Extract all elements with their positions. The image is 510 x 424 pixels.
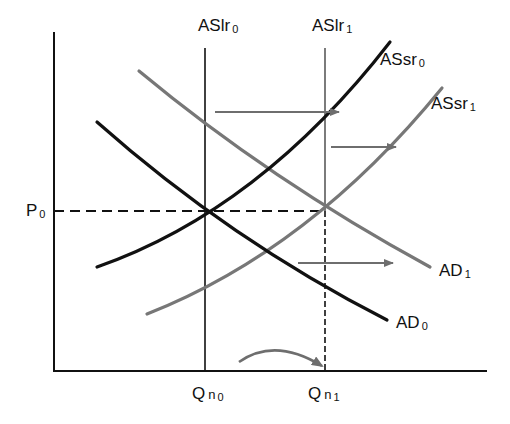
qn0-label-sub: 0 xyxy=(217,391,223,403)
aslr0-label: ASlr0 xyxy=(198,17,238,35)
aslr0-label-sub: 0 xyxy=(232,23,238,35)
ad0-label: AD0 xyxy=(396,314,428,332)
qn0-label: Qn0 xyxy=(192,385,224,403)
aslr1-label-sub: 1 xyxy=(346,23,352,35)
qn1-label-n: n xyxy=(324,387,331,402)
assr1-label-main: ASsr xyxy=(431,94,468,113)
p0-label: P0 xyxy=(26,202,45,220)
qn-shift-curved-arrow xyxy=(239,350,322,366)
assr1-curve xyxy=(147,88,442,314)
p0-label-sub: 0 xyxy=(39,208,45,220)
aslr1-label-main: ASlr xyxy=(312,16,344,35)
qn1-label: Qn1 xyxy=(308,385,340,403)
ad1-label-sub: 1 xyxy=(465,268,471,280)
qn1-label-main: Q xyxy=(308,384,321,403)
qn1-label-sub: 1 xyxy=(333,391,339,403)
assr0-label-main: ASsr xyxy=(380,50,417,69)
assr1-label: ASsr1 xyxy=(431,95,476,113)
ad0-label-main: AD xyxy=(396,313,420,332)
aslr1-label: ASlr1 xyxy=(312,17,352,35)
ad0-label-sub: 0 xyxy=(422,320,428,332)
assr1-label-sub: 1 xyxy=(470,101,476,113)
ad1-label: AD1 xyxy=(439,262,471,280)
diagram-canvas xyxy=(0,0,510,424)
assr0-label-sub: 0 xyxy=(419,57,425,69)
assr0-curve xyxy=(97,42,390,267)
as-ad-diagram: ASlr0 ASlr1 ASsr0 ASsr1 AD1 AD0 P0 Qn0 Q… xyxy=(0,0,510,424)
aslr0-label-main: ASlr xyxy=(198,16,230,35)
assr0-label: ASsr0 xyxy=(380,51,425,69)
qn0-label-n: n xyxy=(208,387,215,402)
ad1-label-main: AD xyxy=(439,261,463,280)
qn0-label-main: Q xyxy=(192,384,205,403)
p0-label-main: P xyxy=(26,201,37,220)
